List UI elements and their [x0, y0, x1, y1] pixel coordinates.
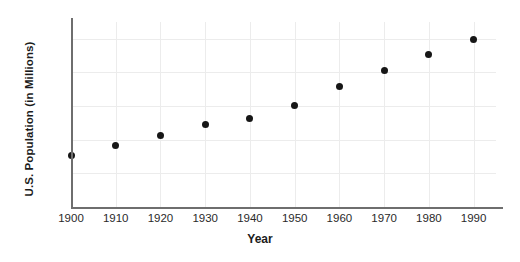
- gridline-vertical: [474, 22, 475, 207]
- data-point: [381, 67, 388, 74]
- x-axis-line: [71, 207, 503, 209]
- x-tick-label: 1970: [361, 212, 407, 224]
- x-tick-label: 1950: [272, 212, 318, 224]
- x-tick-label: 1900: [48, 212, 94, 224]
- plot-area: [71, 22, 496, 207]
- y-axis-line: [71, 18, 73, 209]
- data-point: [202, 121, 209, 128]
- gridline-horizontal: [71, 106, 496, 107]
- data-point: [157, 132, 164, 139]
- x-axis-title: Year: [0, 232, 520, 246]
- gridline-vertical: [384, 22, 385, 207]
- data-point: [246, 115, 253, 122]
- x-tick-label: 1910: [93, 212, 139, 224]
- gridline-vertical: [205, 22, 206, 207]
- x-tick-label: 1940: [227, 212, 273, 224]
- gridline-vertical: [429, 22, 430, 207]
- data-point: [470, 36, 477, 43]
- gridline-vertical: [295, 22, 296, 207]
- gridline-horizontal: [71, 173, 496, 174]
- data-point: [336, 83, 343, 90]
- data-point: [112, 142, 119, 149]
- gridline-horizontal: [71, 140, 496, 141]
- x-tick-label: 1960: [316, 212, 362, 224]
- y-axis-title: U.S. Population (in Millions): [23, 19, 35, 219]
- x-tick-label: 1980: [406, 212, 452, 224]
- x-tick-label: 1920: [137, 212, 183, 224]
- x-tick-label: 1990: [451, 212, 497, 224]
- gridline-vertical: [160, 22, 161, 207]
- gridline-vertical: [339, 22, 340, 207]
- scatter-chart-figure: U.S. Population (in Millions) 0501001502…: [0, 0, 520, 262]
- gridline-horizontal: [71, 39, 496, 40]
- gridline-horizontal: [71, 72, 496, 73]
- data-point: [425, 51, 432, 58]
- x-tick-label: 1930: [182, 212, 228, 224]
- gridline-vertical: [116, 22, 117, 207]
- data-point: [291, 102, 298, 109]
